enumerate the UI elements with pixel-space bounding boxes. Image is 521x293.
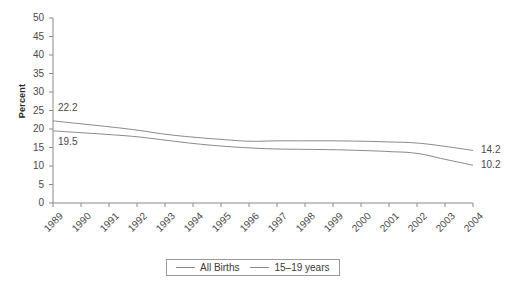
series-line-2 [53, 131, 473, 165]
series-line-1 [53, 121, 473, 151]
legend-entry-1[interactable]: All Births [176, 263, 239, 273]
legend-entry-2[interactable]: 15–19 years [250, 263, 329, 273]
legend-line-icon [176, 267, 195, 268]
plot-canvas [0, 0, 521, 293]
series-lines [53, 121, 473, 165]
line-chart: Percent 05101520253035404550 19891990199… [0, 0, 521, 293]
legend-label: 15–19 years [274, 263, 329, 273]
axes [49, 18, 473, 207]
chart-legend: All Births15–19 years [166, 259, 340, 276]
legend-label: All Births [200, 263, 239, 273]
legend-line-icon [250, 267, 269, 268]
